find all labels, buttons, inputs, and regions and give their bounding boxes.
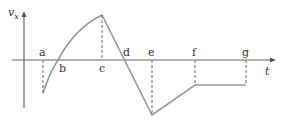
point-label-b: b <box>59 62 66 75</box>
point-label-g: g <box>242 46 249 59</box>
graph-canvas: vx t a b c d e f g <box>0 0 282 124</box>
velocity-curve <box>43 15 246 115</box>
point-label-e: e <box>148 46 155 59</box>
point-label-c: c <box>99 62 105 75</box>
x-axis-label: t <box>265 65 270 78</box>
point-label-f: f <box>192 46 197 59</box>
velocity-time-graph: vx t a b c d e f g <box>0 0 282 124</box>
point-label-a: a <box>39 46 46 59</box>
x-axis-arrow-icon <box>270 58 276 63</box>
point-label-d: d <box>123 46 130 59</box>
y-axis-label: vx <box>8 6 19 21</box>
y-axis-arrow-icon <box>22 11 27 17</box>
